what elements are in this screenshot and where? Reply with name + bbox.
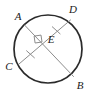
vertex-label-b: B [77,79,84,91]
vertex-label-e: E [47,33,55,45]
chord-cd [19,20,71,64]
vertex-label-c: C [5,60,13,72]
geometry-figure: A B C D E [0,0,93,95]
vertex-label-a: A [14,10,22,22]
figure-canvas: A B C D E [0,0,93,95]
vertex-label-d: D [68,3,77,15]
